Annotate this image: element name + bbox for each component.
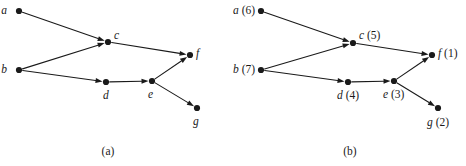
node-d-letter: d <box>103 89 109 101</box>
node-c-number: (5) <box>364 29 380 41</box>
node-f-label: f (1) <box>438 48 458 60</box>
edge-d-to-e <box>352 81 384 82</box>
node-c-dot <box>105 39 111 45</box>
arrowhead-b-to-c <box>97 43 104 48</box>
node-g-label: g <box>193 116 199 128</box>
node-a-label: a (6) <box>233 5 249 17</box>
panel-a-caption: (a) <box>88 146 128 158</box>
edge-b-to-c <box>265 46 343 69</box>
node-d-dot <box>345 79 351 85</box>
edge-c-to-f <box>112 43 180 54</box>
edge-b-to-c <box>23 45 98 69</box>
panel-a: (a) abcdefg <box>0 0 233 166</box>
node-e-label: e <box>148 89 153 101</box>
node-g-letter: g <box>193 115 199 127</box>
edge-b-to-d <box>23 71 96 81</box>
node-c-dot <box>350 40 356 46</box>
panel-b: (b) a (6)b (7)c (5)d (4)e (3)f (1)g (2) <box>233 0 466 166</box>
node-e-dot <box>391 78 397 84</box>
arrowhead-b-to-c <box>342 44 349 49</box>
arrowhead-e-to-f <box>180 57 187 63</box>
edge-e-to-f <box>155 61 181 79</box>
node-d-number: (4) <box>343 89 359 101</box>
node-c-letter: c <box>114 29 119 41</box>
node-f-label: f <box>196 48 199 60</box>
node-b-letter: b <box>1 63 7 75</box>
edge-e-to-g <box>155 83 188 103</box>
edge-a-to-c <box>264 12 343 39</box>
node-a-dot <box>16 8 22 14</box>
node-b-label: b (7) <box>233 64 249 76</box>
node-c-label: c <box>114 30 119 42</box>
edge-c-to-f <box>357 44 422 54</box>
edge-a-to-c <box>22 12 98 38</box>
node-g-dot <box>435 105 441 111</box>
node-g-label: g (2) <box>427 117 449 129</box>
arrowhead-d-to-e <box>383 79 390 84</box>
node-a-number: (6) <box>239 4 255 16</box>
edge-b-to-d <box>265 71 338 81</box>
node-e-letter: e <box>148 88 153 100</box>
arrowhead-a-to-c <box>342 37 349 42</box>
arrowhead-b-to-d <box>337 78 344 83</box>
arrowhead-c-to-f <box>179 51 186 56</box>
node-d-label: d (4) <box>337 90 359 102</box>
node-a-label: a <box>0 5 7 17</box>
arrowhead-e-to-f <box>422 57 429 63</box>
node-e-label: e (3) <box>383 89 404 101</box>
node-g-number: (2) <box>433 116 449 128</box>
node-b-dot <box>258 67 264 73</box>
node-b-label: b <box>0 64 7 76</box>
node-f-number: (1) <box>441 47 457 59</box>
node-e-number: (3) <box>388 88 404 100</box>
node-f-dot <box>187 52 193 58</box>
node-b-number: (7) <box>239 63 255 75</box>
node-a-dot <box>258 8 264 14</box>
arrowhead-c-to-f <box>421 51 428 56</box>
panel-b-caption: (b) <box>330 146 370 158</box>
node-d-dot <box>103 79 109 85</box>
node-b-dot <box>16 67 22 73</box>
node-d-label: d <box>103 90 109 102</box>
edge-e-to-f <box>397 61 423 79</box>
node-f-dot <box>429 52 435 58</box>
arrowhead-d-to-e <box>141 79 148 84</box>
node-f-letter: f <box>196 47 199 59</box>
arrowhead-b-to-d <box>95 78 102 83</box>
node-g-dot <box>194 105 200 111</box>
node-e-dot <box>149 78 155 84</box>
node-a-letter: a <box>1 4 7 16</box>
figure-canvas: (a) abcdefg (b) a (6)b (7)c (5)d (4)e (3… <box>0 0 466 166</box>
arrowhead-e-to-g <box>428 100 435 106</box>
arrowhead-a-to-c <box>97 36 104 41</box>
node-c-label: c (5) <box>359 30 380 42</box>
edge-d-to-e <box>110 81 142 82</box>
arrowhead-e-to-g <box>187 100 194 106</box>
